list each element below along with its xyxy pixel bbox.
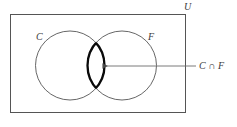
set-circle-c	[36, 31, 105, 100]
universal-set-rectangle	[11, 15, 186, 113]
intersection-annotation-label: C ∩ F	[199, 60, 225, 71]
set-label-f: F	[147, 31, 155, 42]
venn-diagram-figure: U C F C ∩ F	[0, 0, 237, 127]
universal-set-label: U	[184, 1, 192, 12]
set-label-c: C	[36, 31, 43, 42]
set-circle-f	[88, 31, 157, 100]
venn-diagram-canvas: U C F C ∩ F	[0, 0, 237, 127]
